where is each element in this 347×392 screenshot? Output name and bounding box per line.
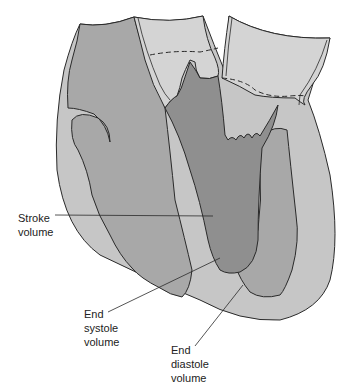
label-stroke-line2: volume: [18, 226, 53, 238]
label-end-diastole-line1: End: [171, 344, 191, 356]
heart-diagram: Stroke volume End systole volume End dia…: [0, 0, 347, 392]
label-stroke-line1: Stroke: [18, 212, 50, 224]
label-end-systole-line1: End: [84, 308, 104, 320]
label-end-diastole-line2: diastole: [171, 358, 209, 370]
label-end-systole-line2: systole: [84, 322, 118, 334]
label-end-systole-line3: volume: [84, 336, 119, 348]
label-end-diastole-line3: volume: [171, 372, 206, 384]
